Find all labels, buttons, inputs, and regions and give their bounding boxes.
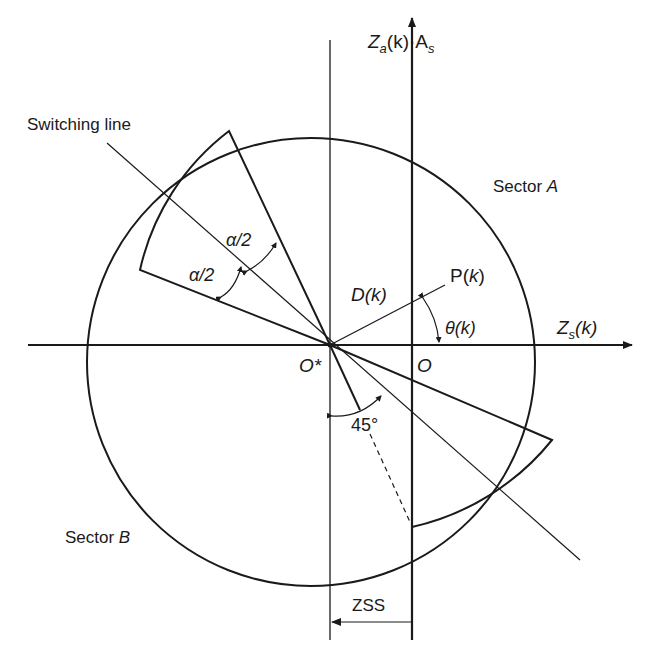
phase-plane-diagram: Za(k)·As Switching line Sector A Sector … <box>0 0 652 659</box>
boundary-ray-lower <box>330 345 360 410</box>
zss-label: ZSS <box>352 596 385 615</box>
angle-45-label: 45° <box>351 415 378 435</box>
sector-wedge-lower <box>330 345 552 527</box>
theta-arc <box>423 298 439 342</box>
origin-star-dot <box>328 343 333 348</box>
alpha-upper-label: α/2 <box>226 230 251 250</box>
x-axis-label: Zs(k) <box>556 317 597 342</box>
alpha-arc-lower <box>221 267 241 297</box>
dashed-projection <box>370 434 410 522</box>
origin-label: O <box>417 355 432 376</box>
switching-line-label: Switching line <box>27 115 131 134</box>
ray-to-p <box>330 285 445 345</box>
origin-star-label: O* <box>299 355 322 376</box>
y-axis-label: Za(k)·As <box>367 31 435 56</box>
sector-wedge-upper-inner-arc <box>168 161 243 279</box>
angle-45-arc <box>332 396 381 416</box>
alpha-lower-label: α/2 <box>189 265 214 285</box>
theta-label: θ(k) <box>445 318 476 338</box>
sector-a-label: Sector A <box>493 177 558 196</box>
sector-b-label: Sector B <box>65 528 130 547</box>
distance-label: D(k) <box>351 284 387 305</box>
alpha-arc-upper <box>247 243 276 271</box>
point-p-label: P(k) <box>450 265 485 286</box>
